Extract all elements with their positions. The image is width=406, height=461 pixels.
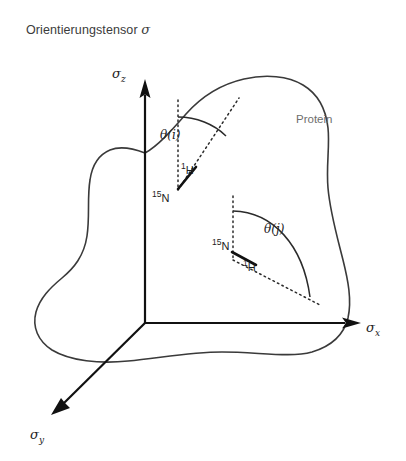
axis-label-sigma-y: σy	[30, 427, 44, 445]
bond-j-nitrogen-symbol: N	[221, 240, 229, 252]
bond-i-hydrogen-symbol: H	[186, 164, 194, 176]
sigma-z-glyph: σ	[112, 66, 121, 81]
axis-label-sigma-x: σx	[366, 320, 380, 338]
protein-label: Protein	[296, 113, 332, 125]
bond-j-hydrogen-symbol: H	[248, 261, 256, 273]
sigma-x-subscript: x	[375, 328, 380, 338]
figure-title-text: Orientierungstensor	[26, 23, 141, 37]
theta-i-arc	[178, 117, 226, 136]
bond-i-nitrogen-label: 15N	[152, 189, 169, 204]
bond-i-hydrogen-label: 1H	[181, 161, 194, 176]
orientation-tensor-figure: Orientierungstensor σ σz σx σy Protein θ…	[0, 0, 406, 461]
theta-j-label: θ(j)	[264, 222, 284, 236]
bond-i-nitrogen-symbol: N	[161, 192, 169, 204]
sigma-z-subscript: z	[121, 74, 126, 84]
sigma-y-subscript: y	[39, 435, 44, 445]
sigma-y-axis-line	[64, 323, 145, 403]
bond-j-hydrogen-label: 1H	[243, 258, 256, 273]
sigma-y-glyph: σ	[30, 427, 39, 442]
figure-title: Orientierungstensor σ	[26, 22, 150, 37]
axis-label-sigma-z: σz	[112, 66, 126, 84]
sigma-x-glyph: σ	[366, 320, 375, 335]
bond-j-nitrogen-label: 15N	[212, 237, 229, 252]
figure-title-sigma-symbol: σ	[141, 22, 150, 37]
diagram-canvas	[0, 0, 406, 461]
theta-i-label: θ(i)	[160, 128, 180, 142]
